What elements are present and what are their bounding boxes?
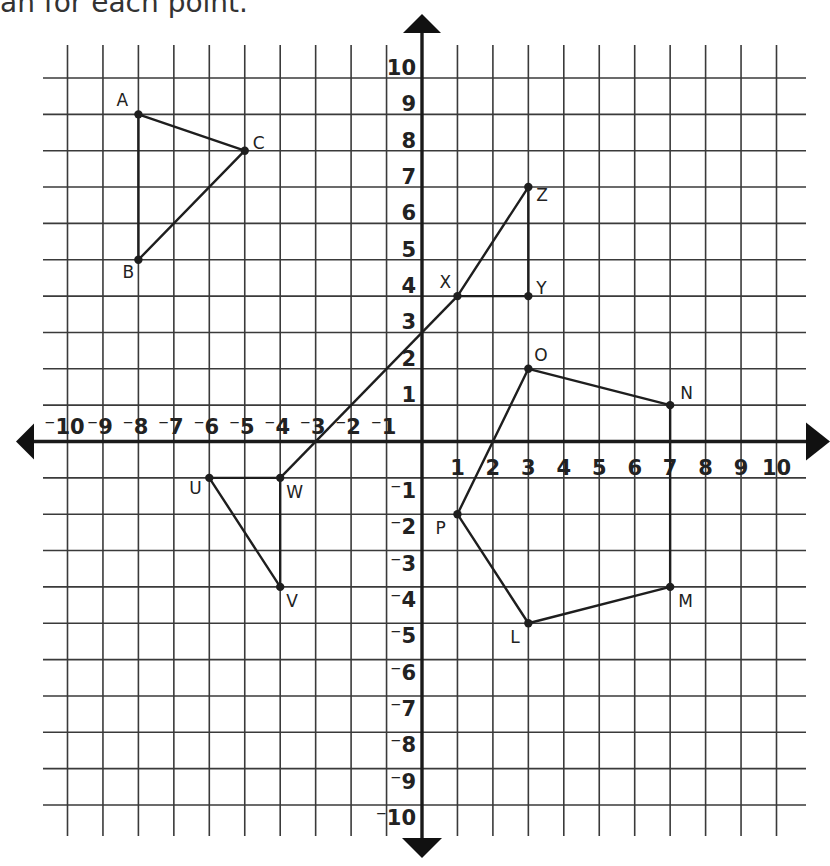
- point-b: [134, 256, 142, 264]
- point-label-y: Y: [535, 278, 547, 298]
- point-v: [276, 583, 284, 591]
- y-tick-label: 10: [387, 56, 416, 80]
- point-o: [524, 365, 532, 373]
- x-tick-label: 2: [486, 456, 501, 480]
- y-tick-label: ⁻5: [390, 624, 416, 648]
- y-tick-label: ⁻8: [390, 733, 416, 757]
- x-tick-label: 4: [556, 456, 571, 480]
- x-tick-label: 5: [592, 456, 607, 480]
- x-tick-label: ⁻7: [158, 415, 184, 439]
- x-tick-label: 9: [734, 456, 749, 480]
- point-a: [134, 110, 142, 118]
- x-tick-label: ⁻5: [229, 415, 255, 439]
- point-label-m: M: [678, 591, 693, 611]
- y-tick-label: 8: [401, 129, 416, 153]
- point-label-n: N: [680, 383, 693, 403]
- point-w: [276, 474, 284, 482]
- point-label-v: V: [286, 591, 298, 611]
- y-tick-label: ⁻7: [390, 697, 416, 721]
- y-tick-label: ⁻1: [390, 479, 416, 503]
- arrow-right-icon: [806, 423, 830, 461]
- point-label-w: W: [286, 482, 303, 502]
- line-wx: [280, 296, 457, 478]
- point-label-u: U: [189, 478, 201, 498]
- y-tick-label: ⁻6: [390, 661, 416, 685]
- x-tick-label: ⁻10: [44, 415, 84, 439]
- y-tick-label: ⁻4: [390, 588, 416, 612]
- x-tick-label: 8: [698, 456, 713, 480]
- point-label-c: C: [253, 133, 265, 153]
- y-tick-label: ⁻2: [390, 515, 416, 539]
- point-label-z: Z: [536, 185, 548, 205]
- point-label-l: L: [510, 627, 520, 647]
- y-tick-label: ⁻10: [376, 806, 416, 830]
- point-n: [666, 401, 674, 409]
- x-tick-label: ⁻1: [371, 415, 397, 439]
- point-p: [453, 510, 461, 518]
- point-label-a: A: [116, 90, 128, 110]
- x-tick-label: 1: [450, 456, 465, 480]
- point-y: [524, 292, 532, 300]
- y-tick-label: ⁻9: [390, 770, 416, 794]
- y-tick-label: 4: [401, 274, 416, 298]
- y-tick-label: 6: [401, 201, 416, 225]
- x-tick-label: ⁻4: [264, 415, 290, 439]
- point-c: [241, 147, 249, 155]
- x-tick-label: 10: [762, 456, 791, 480]
- point-u: [205, 474, 213, 482]
- point-l: [524, 619, 532, 627]
- x-tick-label: ⁻8: [123, 415, 149, 439]
- x-tick-label: 6: [627, 456, 642, 480]
- point-z: [524, 183, 532, 191]
- y-tick-label: ⁻3: [390, 552, 416, 576]
- point-label-x: X: [439, 272, 451, 292]
- y-tick-label: 5: [401, 238, 416, 262]
- y-tick-label: 3: [401, 310, 416, 334]
- point-m: [666, 583, 674, 591]
- arrow-left-icon: [16, 424, 34, 460]
- arrow-up-icon: [403, 14, 441, 33]
- x-tick-label: ⁻6: [193, 415, 219, 439]
- point-label-b: B: [122, 262, 134, 282]
- y-tick-label: 9: [401, 92, 416, 116]
- point-label-p: P: [435, 518, 445, 538]
- x-tick-label: ⁻9: [87, 415, 113, 439]
- coordinate-plane: ⁻10⁻9⁻8⁻7⁻6⁻5⁻4⁻3⁻2⁻11234567891010987654…: [0, 0, 830, 866]
- y-tick-label: 7: [401, 165, 416, 189]
- x-tick-label: 3: [521, 456, 536, 480]
- y-tick-label: 1: [401, 383, 416, 407]
- point-label-o: O: [534, 345, 547, 365]
- arrow-down-icon: [402, 838, 442, 858]
- point-x: [453, 292, 461, 300]
